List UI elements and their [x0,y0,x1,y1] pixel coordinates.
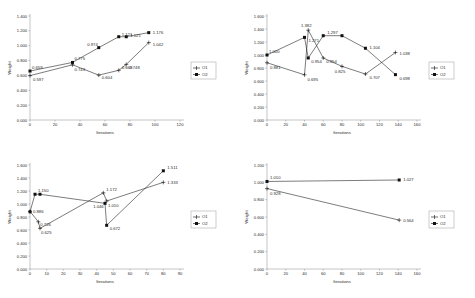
data-point-label: 1.271 [309,38,320,43]
x-tick-label: 10 [44,271,49,276]
data-point-label: 0.743 [75,67,86,72]
data-point-marker [307,56,310,59]
chart-bottom-left: 0.0000.2000.4000.6000.8001.0001.2001.400… [0,149,237,298]
y-tick-label: 0.800 [17,58,28,63]
svg-text:O2: O2 [202,72,208,77]
data-point-marker [303,36,306,39]
y-tick-label: 1.200 [254,163,265,168]
data-point-marker [105,224,108,227]
data-point-marker [322,34,325,37]
x-tick-label: 160 [414,271,422,276]
data-point-marker [340,64,344,68]
data-point-marker [393,51,397,55]
data-point-label: 1.172 [106,187,117,192]
y-tick-label: 0.400 [254,92,265,97]
y-tick-label: 0.600 [254,215,265,220]
data-point-label: 1.038 [399,51,410,56]
svg-text:O2: O2 [440,72,446,77]
x-tick-label: 70 [144,271,149,276]
svg-text:O2: O2 [440,221,446,226]
x-tick-label: 50 [111,271,116,276]
chart-bottom-right: 0.0000.2000.4000.6000.8001.0001.20002040… [237,149,475,298]
x-tick-label: 30 [78,271,83,276]
data-point-label: 0.775 [75,56,86,61]
data-point-marker [28,74,32,78]
x-tick-label: 80 [161,271,166,276]
data-point-marker [303,73,307,77]
data-point-label: 1.333 [167,180,178,185]
series-line-O1 [267,189,399,221]
x-tick-label: 80 [340,271,345,276]
legend: O1O2 [429,211,454,228]
y-tick-label: 1.000 [254,53,265,58]
chart-panel-bottom-right: 0.0000.2000.4000.6000.8001.0001.20002040… [237,149,475,298]
x-tick-label: 0 [29,271,32,276]
data-point-label: 0.974 [87,42,98,47]
data-point-marker [101,191,105,195]
data-point-label: 0.707 [369,75,380,80]
data-point-label: 0.672 [110,226,121,231]
chart-top-left: 0.0000.2000.4000.6000.8001.0001.2001.400… [0,0,237,149]
y-tick-label: 1.000 [254,180,265,185]
svg-text:O1: O1 [440,65,446,70]
chart-panel-bottom-left: 0.0000.2000.4000.6000.8001.0001.2001.400… [0,149,237,298]
data-point-label: 0.698 [399,76,410,81]
x-tick-label: 20 [61,271,66,276]
data-point-label: 0.954 [311,59,322,64]
data-point-marker [162,169,165,172]
y-tick-label: 0.200 [17,254,28,259]
data-point-marker [398,178,401,181]
data-point-label: 1.010 [108,203,119,208]
series-line-O1 [267,30,395,75]
y-tick-label: 0.400 [17,88,28,93]
series-line-O1 [30,43,149,76]
x-tick-label: 0 [266,271,269,276]
x-tick-label: 160 [414,122,422,127]
data-point-marker [104,202,107,205]
y-tick-label: 1.200 [17,189,28,194]
data-point-label: 1.511 [167,165,178,170]
y-tick-label: 0.200 [254,105,265,110]
x-tick-label: 100 [357,271,365,276]
y-tick-label: 0.800 [17,215,28,220]
y-tick-label: 0.000 [254,118,265,123]
x-tick-label: 20 [283,271,288,276]
y-tick-label: 0.200 [254,249,265,254]
x-axis-title: Iterations [96,279,114,284]
data-point-marker [306,28,310,32]
x-axis-title: Iterations [333,279,351,284]
x-tick-label: 90 [178,271,183,276]
y-tick-label: 0.800 [254,66,265,71]
legend: O1O2 [191,62,216,79]
data-point-marker [34,193,37,196]
data-point-label: 1.382 [301,23,312,28]
y-axis-title: Weight [7,210,12,224]
data-point-label: 1.042 [153,42,164,47]
svg-text:O1: O1 [202,65,208,70]
data-point-marker [394,73,397,76]
data-point-marker [363,72,367,76]
y-tick-label: 1.400 [17,14,28,19]
x-tick-label: 60 [128,271,133,276]
data-point-marker [265,61,269,65]
data-point-label: 0.825 [335,69,346,74]
legend: O1O2 [429,62,454,79]
data-point-label: 0.954 [326,59,337,64]
x-tick-label: 40 [302,122,307,127]
data-point-label: 1.000 [269,49,280,54]
data-point-label: 0.881 [270,65,281,70]
x-tick-label: 140 [395,122,403,127]
data-point-label: 0.748 [129,65,140,70]
data-point-label: 0.597 [33,77,44,82]
data-point-marker [265,187,269,191]
y-tick-label: 0.000 [17,118,28,123]
data-point-label: 1.104 [369,45,380,50]
y-tick-label: 1.000 [17,43,28,48]
y-axis-title: Weight [244,210,249,224]
y-tick-label: 1.600 [254,14,265,19]
x-axis-title: Iterations [333,130,351,135]
y-tick-label: 0.600 [254,79,265,84]
y-tick-label: 0.600 [17,228,28,233]
x-tick-label: 120 [177,122,185,127]
data-point-label: 0.604 [102,75,113,80]
